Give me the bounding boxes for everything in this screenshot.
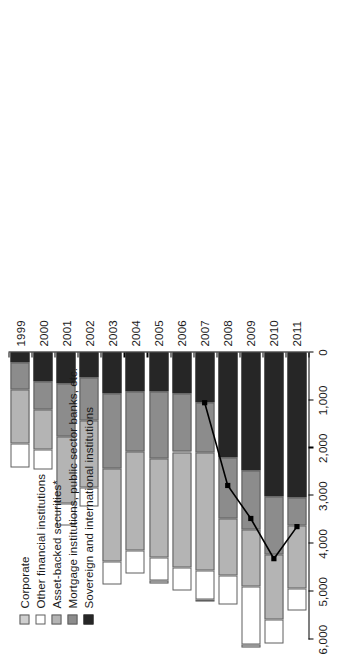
bar-segment xyxy=(195,352,214,402)
bar-segment xyxy=(10,352,29,362)
legend-swatch xyxy=(35,614,45,624)
bar-segment xyxy=(287,352,306,497)
legend-label: Corporate xyxy=(18,556,30,608)
bar-2010 xyxy=(264,0,283,660)
legend-swatch xyxy=(51,614,61,624)
value-tick-label: 2,000 xyxy=(316,433,328,463)
bar-2007 xyxy=(195,0,214,660)
bar-segment xyxy=(264,619,283,643)
legend-swatch xyxy=(83,614,93,624)
category-tick xyxy=(285,352,286,357)
bar-segment xyxy=(125,352,144,391)
bar-segment xyxy=(102,561,121,584)
value-tick-label: 6,000 xyxy=(316,624,328,654)
bar-segment xyxy=(172,393,191,451)
legend-label: Asset-backed securities* xyxy=(50,480,62,608)
bar-segment xyxy=(195,599,214,601)
category-tick xyxy=(193,352,194,357)
legend-label: Mortgage institutions, public sector ban… xyxy=(66,367,78,608)
plot-area: 01,0002,0003,0004,0005,0006,000 19992000… xyxy=(0,0,351,660)
value-tick-label: 4,000 xyxy=(316,528,328,558)
value-tick-label: 0 xyxy=(316,349,328,356)
legend-swatch xyxy=(19,614,29,624)
legend-label: Other financial institutions xyxy=(34,474,46,608)
bar-2009 xyxy=(241,0,260,660)
category-tick xyxy=(100,352,101,357)
bar-segment xyxy=(264,352,283,496)
bar-segment xyxy=(125,451,144,550)
value-tick xyxy=(308,446,313,447)
bar-segment xyxy=(241,586,260,644)
legend-item: Asset-backed securities* xyxy=(50,367,62,624)
bar-segment xyxy=(102,393,121,468)
bar-segment xyxy=(241,644,260,647)
category-tick xyxy=(262,352,263,357)
bar-segment xyxy=(264,554,283,619)
bar-segment xyxy=(195,570,214,599)
bar-segment xyxy=(149,391,168,458)
bar-segment xyxy=(195,402,214,452)
legend-item: Sovereign and international institutions xyxy=(82,367,94,624)
value-tick-label: 1,000 xyxy=(316,385,328,415)
chart-rotation-wrapper: 01,0002,0003,0004,0005,0006,000 19992000… xyxy=(0,0,351,660)
bar-segment xyxy=(172,452,191,567)
bar-segment xyxy=(218,575,237,604)
bar-segment xyxy=(218,352,237,457)
value-tick xyxy=(308,638,313,639)
value-tick xyxy=(308,399,313,400)
bar-segment xyxy=(241,470,260,528)
value-tick xyxy=(308,542,313,543)
bar-segment xyxy=(218,518,237,576)
bar-2008 xyxy=(218,0,237,660)
category-tick xyxy=(8,352,9,357)
legend-item: Mortgage institutions, public sector ban… xyxy=(66,367,78,624)
bar-2004 xyxy=(125,0,144,660)
bar-segment xyxy=(218,457,237,517)
bar-segment xyxy=(125,550,144,573)
bar-segment xyxy=(241,529,260,587)
bar-segment xyxy=(149,458,168,557)
bar-segment xyxy=(287,588,306,610)
bar-segment xyxy=(102,468,121,561)
value-tick xyxy=(308,494,313,495)
value-tick-label: 5,000 xyxy=(316,576,328,606)
chart-legend: CorporateOther financial institutionsAss… xyxy=(18,367,98,624)
category-tick xyxy=(170,352,171,357)
bar-segment xyxy=(149,352,168,391)
bar-2006 xyxy=(172,0,191,660)
legend-label: Sovereign and international institutions xyxy=(82,406,94,608)
legend-swatch xyxy=(67,614,77,624)
bar-segment xyxy=(172,567,191,590)
legend-item: Corporate xyxy=(18,367,30,624)
bar-segment xyxy=(149,557,168,580)
category-tick xyxy=(239,352,240,357)
category-tick xyxy=(146,352,147,357)
category-tick xyxy=(54,352,55,357)
bar-segment xyxy=(102,352,121,393)
category-tick xyxy=(123,352,124,357)
bar-2005 xyxy=(149,0,168,660)
bar-2003 xyxy=(102,0,121,660)
bar-segment xyxy=(287,497,306,525)
bar-segment xyxy=(287,525,306,588)
bar-segment xyxy=(149,580,168,583)
legend-item: Other financial institutions xyxy=(34,367,46,624)
bar-segment xyxy=(241,352,260,470)
value-tick-label: 3,000 xyxy=(316,481,328,511)
bar-2011 xyxy=(287,0,306,660)
category-tick xyxy=(308,352,309,357)
bar-segment xyxy=(125,391,144,451)
bar-segment xyxy=(172,352,191,393)
bar-segment xyxy=(195,452,214,569)
value-tick xyxy=(308,590,313,591)
chart-figure: 01,0002,0003,0004,0005,0006,000 19992000… xyxy=(0,0,351,660)
category-tick xyxy=(216,352,217,357)
category-tick xyxy=(31,352,32,357)
category-tick xyxy=(77,352,78,357)
bar-segment xyxy=(264,496,283,554)
